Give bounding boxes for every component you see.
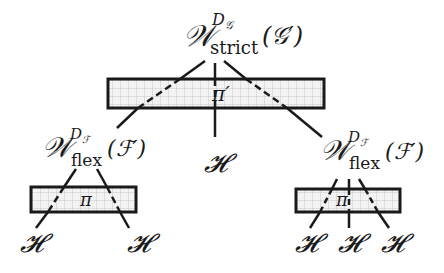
left-leaf-label-1: 𝓗 <box>20 228 54 258</box>
left-leaf-label-2: 𝓗 <box>127 228 161 258</box>
right-child-superscript-sub: ℱ <box>360 137 370 148</box>
left-child-subscript: flex <box>71 150 102 170</box>
right-leaf-label-1: 𝓗 <box>295 228 329 258</box>
root-superscript: D <box>211 10 225 29</box>
root-superscript-sub: 𝒢 <box>225 19 235 32</box>
root-subscript: strict <box>210 37 259 58</box>
root-projection-label: π′ <box>211 82 230 106</box>
left-child-superscript: D <box>69 125 82 143</box>
right-leaf-label-2: 𝓗 <box>338 228 372 258</box>
left-child-node-label: 𝒲 D ℱ flex (ℱ′) <box>42 125 146 170</box>
right-child-subscript: flex <box>349 153 380 173</box>
right-child-argument: (ℱ′) <box>385 139 424 164</box>
center-leaf-label: 𝓗 <box>204 148 238 178</box>
left-child-superscript-sub: ℱ <box>82 134 92 145</box>
right-child-superscript: D <box>347 128 360 146</box>
left-projection-label: π <box>79 189 93 210</box>
right-leaf-label-3: 𝓗 <box>381 228 415 258</box>
root-argument: (𝒢′) <box>262 22 303 50</box>
tree-diagram: 𝒲 D 𝒢 strict (𝒢′) π′ 𝓗 𝒲 D ℱ flex (ℱ′) <box>0 0 444 273</box>
right-child-node-label: 𝒲 D ℱ flex (ℱ′) <box>320 128 424 173</box>
right-projection-label: π <box>335 189 349 210</box>
left-child-argument: (ℱ′) <box>107 136 146 161</box>
root-node-label: 𝒲 D 𝒢 strict (𝒢′) <box>183 10 303 58</box>
